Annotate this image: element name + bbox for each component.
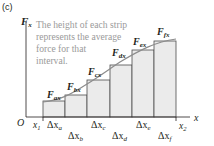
strip-b bbox=[65, 95, 87, 117]
force-label-c: Fcx bbox=[87, 66, 102, 79]
force-label-f: Ffx bbox=[156, 26, 170, 39]
annotation-line-4: interval. bbox=[36, 55, 68, 66]
annotation: The height of each strip represents the … bbox=[36, 19, 127, 66]
strip-d bbox=[110, 65, 132, 117]
delta-label-d: Δxd bbox=[112, 130, 127, 143]
delta-label-b: Δxb bbox=[68, 130, 83, 143]
strip-c bbox=[87, 80, 110, 117]
annotation-line-2: represents the average bbox=[36, 31, 121, 42]
x1-label: x1 bbox=[32, 120, 40, 131]
force-label-b: Fbx bbox=[66, 81, 81, 94]
y-axis-label: Fx bbox=[20, 15, 32, 29]
x2-label: x2 bbox=[178, 121, 187, 132]
delta-label-f: Δxf bbox=[158, 130, 172, 143]
annotation-line-1: The height of each strip bbox=[36, 19, 127, 30]
panel-label: (c) bbox=[2, 2, 13, 12]
force-strip-diagram: (c) Fx x O x1 x2 The height of each stri… bbox=[0, 0, 214, 146]
delta-label-e: Δxe bbox=[136, 119, 151, 132]
x-axis-label: x bbox=[193, 112, 199, 123]
force-label-e: Fex bbox=[132, 36, 147, 49]
strip-e bbox=[132, 50, 154, 117]
delta-label-a: Δxa bbox=[47, 119, 62, 132]
strip-a bbox=[43, 101, 65, 117]
delta-label-c: Δxc bbox=[91, 119, 106, 132]
annotation-line-3: force for that bbox=[36, 43, 86, 54]
origin-label: O bbox=[17, 117, 24, 128]
strip-f bbox=[154, 41, 176, 117]
force-label-d: Fdx bbox=[111, 47, 126, 60]
force-label-a: Fax bbox=[46, 89, 61, 102]
